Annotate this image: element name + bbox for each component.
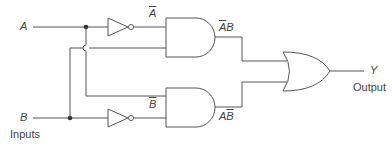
and2-output-label: AB bbox=[219, 111, 234, 122]
or-gate bbox=[283, 52, 330, 91]
not-b-bubble bbox=[129, 116, 134, 121]
not-b-gate bbox=[108, 109, 128, 127]
inputs-caption: Inputs bbox=[10, 129, 40, 140]
input-b-label: B bbox=[20, 112, 27, 123]
output-caption: Output bbox=[353, 82, 386, 93]
and1-to-or-wire bbox=[215, 37, 287, 61]
and2-to-or-wire bbox=[215, 82, 287, 107]
and2-b-bar: B bbox=[226, 110, 233, 122]
not-a-bubble bbox=[129, 25, 134, 30]
and1-output-label: AB bbox=[219, 22, 234, 33]
not-a-gate bbox=[108, 18, 128, 36]
not-a-label: A bbox=[149, 8, 156, 19]
input-a-label: A bbox=[20, 21, 27, 32]
output-y-label: Y bbox=[370, 65, 377, 76]
and-gate-2 bbox=[166, 88, 215, 127]
and-gate-1 bbox=[166, 18, 215, 57]
and1-b: B bbox=[226, 21, 233, 33]
not-b-label: B bbox=[149, 99, 156, 110]
logic-circuit-diagram bbox=[0, 0, 392, 148]
a-to-and2-wire bbox=[83, 27, 166, 96]
